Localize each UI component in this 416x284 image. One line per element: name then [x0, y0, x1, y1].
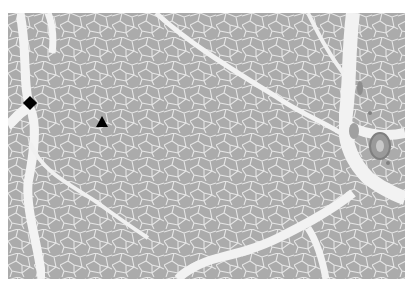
triangle-marker-icon — [96, 116, 108, 127]
tissue-drawing — [8, 13, 405, 279]
muscle-micrograph — [8, 13, 405, 279]
